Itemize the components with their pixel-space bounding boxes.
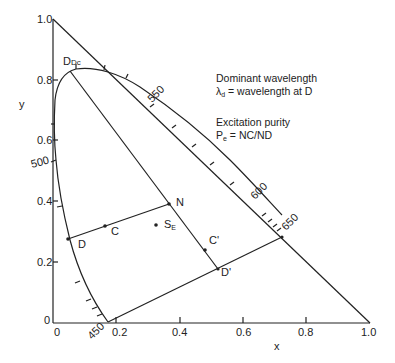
- label-C: C: [111, 225, 119, 237]
- point-D: [66, 237, 70, 241]
- label-SE: SE: [164, 218, 176, 231]
- x-tick-06: 0.6: [236, 326, 251, 338]
- y-tick-08: 0.8: [37, 74, 52, 86]
- x-tick-0: 0: [54, 326, 60, 338]
- y-tick-04: 0.4: [37, 195, 52, 207]
- point-D-prime: [216, 267, 219, 270]
- chromaticity-diagram: 1.0 0.8 0.6 0.4 0.2 0 0 0.2 0.4 0.6 0.8 …: [0, 0, 395, 363]
- x-tick-08: 0.8: [298, 326, 313, 338]
- label-Dc: DDc: [63, 55, 81, 67]
- label-D-prime: D': [221, 266, 231, 278]
- purple-line: [108, 237, 282, 322]
- label-C-prime: C': [209, 234, 219, 246]
- y-tick-0: 0: [44, 314, 50, 326]
- dominant-wavelength-formula: λd = wavelength at D: [216, 85, 313, 98]
- excitation-purity-title: Excitation purity: [216, 116, 291, 128]
- wavelength-550: 550: [145, 83, 166, 104]
- wavelength-650: 650: [279, 211, 300, 232]
- x-tick-02: 0.2: [112, 326, 127, 338]
- point-C-prime: [203, 248, 207, 252]
- point-650: [280, 235, 283, 238]
- point-C: [103, 224, 107, 228]
- diagonal-line: [53, 19, 370, 323]
- x-tick-1: 1.0: [361, 326, 376, 338]
- dominant-wavelength-title: Dominant wavelength: [216, 72, 317, 84]
- label-D: D: [78, 238, 86, 250]
- y-tick-06: 0.6: [37, 134, 52, 146]
- excitation-purity-formula: Pe = NC/ND: [216, 129, 273, 142]
- wavelength-500: 500: [29, 154, 50, 170]
- dominant-complement-line: [70, 71, 218, 269]
- y-tick-02: 0.2: [37, 256, 52, 268]
- x-tick-04: 0.4: [172, 326, 187, 338]
- spectral-locus: [54, 68, 282, 322]
- x-axis-label: x: [274, 340, 280, 352]
- point-SE: [154, 223, 158, 227]
- y-tick-1: 1.0: [37, 13, 52, 25]
- y-axis-label: y: [19, 98, 25, 110]
- point-N: [167, 202, 171, 206]
- label-N: N: [176, 196, 184, 208]
